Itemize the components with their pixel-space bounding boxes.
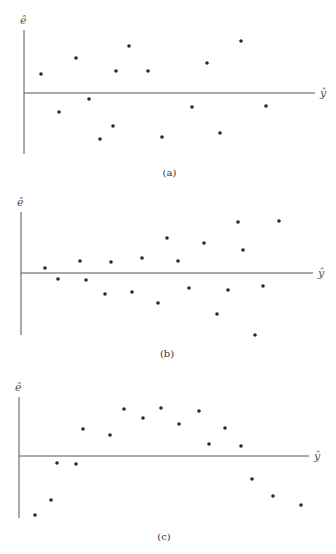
data-point xyxy=(39,72,43,76)
data-point xyxy=(74,462,78,466)
data-point xyxy=(49,498,53,502)
data-point xyxy=(177,422,181,426)
data-point xyxy=(56,277,60,281)
data-point xyxy=(98,137,102,141)
data-point xyxy=(159,406,163,410)
data-point xyxy=(127,44,131,48)
data-point xyxy=(190,105,194,109)
panel-a: êŷ(a) xyxy=(20,14,327,178)
data-point xyxy=(205,61,209,65)
data-point xyxy=(43,266,47,270)
data-point xyxy=(218,131,222,135)
data-point xyxy=(55,461,59,465)
data-point xyxy=(239,39,243,43)
x-axis-label: ŷ xyxy=(313,450,321,463)
data-point xyxy=(111,124,115,128)
panel-caption: (c) xyxy=(157,531,171,542)
x-axis-label: ŷ xyxy=(317,267,325,280)
data-point xyxy=(207,442,211,446)
data-point xyxy=(74,56,78,60)
data-point xyxy=(160,135,164,139)
panel-b: êŷ(b) xyxy=(17,196,325,359)
panel-caption: (a) xyxy=(163,167,177,178)
data-point xyxy=(78,259,82,263)
y-axis-label: ê xyxy=(15,381,22,394)
data-point xyxy=(57,110,61,114)
y-axis-label: ê xyxy=(20,14,27,27)
x-axis-label: ŷ xyxy=(319,87,327,100)
data-point xyxy=(271,494,275,498)
data-point xyxy=(122,407,126,411)
data-point xyxy=(226,288,230,292)
data-point xyxy=(87,97,91,101)
data-point xyxy=(241,248,245,252)
data-point xyxy=(146,69,150,73)
data-point xyxy=(176,259,180,263)
data-point xyxy=(187,286,191,290)
data-point xyxy=(156,301,160,305)
data-point xyxy=(130,290,134,294)
data-point xyxy=(108,433,112,437)
y-axis-label: ê xyxy=(17,196,24,209)
data-point xyxy=(141,416,145,420)
data-point xyxy=(84,278,88,282)
data-point xyxy=(197,409,201,413)
data-point xyxy=(264,104,268,108)
data-point xyxy=(261,284,265,288)
panel-caption: (b) xyxy=(160,348,174,359)
data-point xyxy=(33,513,37,517)
data-point xyxy=(277,219,281,223)
data-point xyxy=(223,426,227,430)
data-point xyxy=(114,69,118,73)
data-point xyxy=(103,292,107,296)
data-point xyxy=(202,241,206,245)
data-point xyxy=(109,260,113,264)
data-point xyxy=(165,236,169,240)
data-point xyxy=(239,444,243,448)
panel-c: êŷ(c) xyxy=(15,381,321,542)
data-point xyxy=(140,256,144,260)
data-point xyxy=(81,427,85,431)
data-point xyxy=(215,312,219,316)
data-point xyxy=(299,503,303,507)
data-point xyxy=(253,333,257,337)
data-point xyxy=(250,477,254,481)
data-point xyxy=(236,220,240,224)
residual-plots-figure: êŷ(a) êŷ(b) êŷ(c) xyxy=(0,0,336,554)
